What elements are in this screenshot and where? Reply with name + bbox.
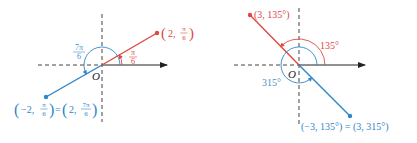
left-blue-angle-den: 6 — [77, 52, 81, 61]
svg-text:6: 6 — [42, 110, 46, 118]
svg-text:6: 6 — [182, 34, 186, 42]
right-blue-angle-label: 315° — [262, 77, 281, 88]
left-red-point-label: ( 2, π 6 ) — [161, 25, 194, 42]
left-blue-point — [44, 95, 48, 99]
left-blue-angle-num: 7π — [75, 43, 83, 52]
left-origin-label: O — [92, 70, 100, 82]
svg-text:7π: 7π — [82, 101, 90, 109]
right-diagram: O 135° 315° (3, 135°) (−3, 135°) = (3, 3… — [234, 8, 389, 133]
right-red-point — [248, 13, 252, 17]
right-blue-ray — [299, 65, 350, 116]
svg-text:=: = — [55, 104, 61, 115]
polar-coordinates-figure: O π 6 7π 6 ( 2, π 6 ) ( −2, π 6 ) = ( 2, — [0, 0, 417, 143]
svg-text:(: ( — [62, 101, 67, 119]
right-origin-label: O — [288, 68, 296, 80]
svg-text:(: ( — [161, 25, 166, 42]
left-red-angle-den: 6 — [131, 57, 135, 66]
svg-text:2,: 2, — [168, 28, 176, 39]
left-red-angle-num: π — [131, 48, 135, 57]
left-red-point — [155, 31, 159, 35]
right-blue-point — [348, 114, 352, 118]
svg-text:π: π — [182, 25, 186, 33]
left-diagram: O π 6 7π 6 ( 2, π 6 ) ( −2, π 6 ) = ( 2, — [14, 14, 194, 122]
svg-text:): ) — [92, 101, 97, 119]
svg-text:6: 6 — [84, 110, 88, 118]
right-red-angle-label: 135° — [320, 40, 339, 51]
right-red-point-label: (3, 135°) — [254, 9, 290, 21]
svg-text:−2,: −2, — [21, 104, 34, 115]
right-blue-point-label: (−3, 135°) = (3, 315°) — [301, 121, 389, 133]
svg-text:(: ( — [14, 101, 19, 119]
svg-text:π: π — [42, 101, 46, 109]
left-blue-point-label: ( −2, π 6 ) = ( 2, 7π 6 ) — [14, 101, 97, 119]
right-red-angle-arc — [281, 39, 325, 65]
svg-text:): ) — [49, 101, 54, 119]
svg-text:): ) — [189, 25, 194, 42]
svg-text:2,: 2, — [69, 104, 77, 115]
